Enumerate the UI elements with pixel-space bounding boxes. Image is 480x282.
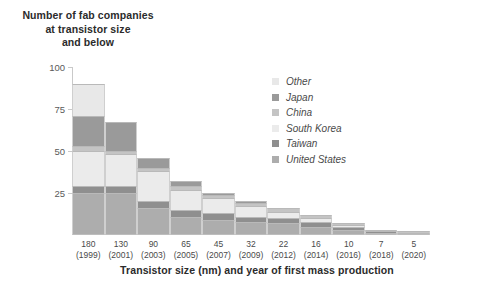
chart-root: Number of fab companies at transistor si… — [0, 0, 480, 282]
plot-area: 100755025 — [72, 67, 430, 235]
legend-item[interactable]: China — [272, 105, 346, 121]
x-tick-label: 180 (1999) — [72, 239, 105, 261]
bar-segment[interactable] — [137, 158, 170, 168]
bar-segment[interactable] — [235, 206, 268, 216]
x-tick-label: 5 (2020) — [397, 239, 430, 261]
x-axis-labels: 180 (1999)130 (2001)90 (2003)65 (2005)45… — [72, 239, 430, 261]
bar-series-group — [72, 67, 430, 235]
bar-segment[interactable] — [332, 230, 365, 235]
bar-segment[interactable] — [300, 227, 333, 235]
legend-swatch-icon — [272, 78, 279, 85]
legend-item[interactable]: Taiwan — [272, 136, 346, 152]
bar-segment[interactable] — [105, 154, 138, 186]
bar-segment[interactable] — [105, 186, 138, 193]
bar-column[interactable] — [72, 67, 105, 235]
bar-segment[interactable] — [202, 213, 235, 220]
legend-item[interactable]: South Korea — [272, 121, 346, 137]
legend-swatch-icon — [272, 125, 279, 132]
bar-segment[interactable] — [235, 222, 268, 235]
bar-segment[interactable] — [105, 193, 138, 235]
legend-item[interactable]: United States — [272, 152, 346, 168]
bar-segment[interactable] — [105, 122, 138, 151]
chart-title: Number of fab companies at transistor si… — [8, 9, 168, 50]
legend-swatch-icon — [272, 140, 279, 147]
bar-column[interactable] — [202, 67, 235, 235]
legend-item[interactable]: Other — [272, 74, 346, 90]
bar-segment[interactable] — [365, 233, 398, 235]
bar-segment[interactable] — [72, 116, 105, 146]
bar-segment[interactable] — [72, 151, 105, 186]
bar-segment[interactable] — [72, 193, 105, 235]
bar-segment[interactable] — [202, 220, 235, 235]
legend-item-label: China — [286, 107, 312, 118]
legend-item-label: Taiwan — [286, 138, 317, 149]
legend-item-label: Japan — [286, 92, 313, 103]
legend-item-label: United States — [286, 154, 346, 165]
x-tick-label: 65 (2005) — [170, 239, 203, 261]
legend-swatch-icon — [272, 109, 279, 116]
bar-segment[interactable] — [267, 212, 300, 219]
y-tick-label: 75 — [54, 104, 72, 115]
legend-item-label: Other — [286, 76, 311, 87]
x-tick-label: 45 (2007) — [202, 239, 235, 261]
x-tick-label: 16 (2014) — [300, 239, 333, 261]
bar-segment[interactable] — [170, 190, 203, 210]
bar-column[interactable] — [170, 67, 203, 235]
bar-column[interactable] — [137, 67, 170, 235]
bar-segment[interactable] — [170, 210, 203, 217]
legend-swatch-icon — [272, 156, 279, 163]
bar-segment[interactable] — [137, 171, 170, 201]
bar-segment[interactable] — [72, 84, 105, 116]
x-tick-label: 90 (2003) — [137, 239, 170, 261]
bar-segment[interactable] — [72, 186, 105, 193]
x-tick-label: 32 (2009) — [235, 239, 268, 261]
bar-column[interactable] — [397, 67, 430, 235]
bar-segment[interactable] — [267, 223, 300, 235]
x-tick-label: 22 (2012) — [267, 239, 300, 261]
legend-item[interactable]: Japan — [272, 90, 346, 106]
bar-segment[interactable] — [397, 233, 430, 235]
bar-column[interactable] — [365, 67, 398, 235]
legend-swatch-icon — [272, 94, 279, 101]
bar-segment[interactable] — [170, 217, 203, 235]
bar-column[interactable] — [105, 67, 138, 235]
chart-legend: OtherJapanChinaSouth KoreaTaiwanUnited S… — [272, 74, 346, 167]
bar-column[interactable] — [235, 67, 268, 235]
x-tick-label: 130 (2001) — [105, 239, 138, 261]
bar-segment[interactable] — [137, 208, 170, 235]
y-tick-label: 50 — [54, 146, 72, 157]
y-tick-label: 100 — [49, 62, 72, 73]
x-axis-title: Transistor size (nm) and year of first m… — [72, 264, 442, 276]
bar-segment[interactable] — [137, 201, 170, 208]
bar-segment[interactable] — [202, 198, 235, 213]
legend-item-label: South Korea — [286, 123, 342, 134]
x-tick-label: 7 (2018) — [365, 239, 398, 261]
x-tick-label: 10 (2016) — [332, 239, 365, 261]
y-tick-label: 25 — [54, 188, 72, 199]
